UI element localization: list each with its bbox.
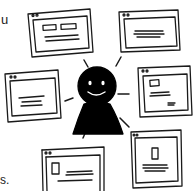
- person-smiling-icon: [73, 67, 123, 134]
- browser-window-mid-left: [5, 70, 61, 122]
- browser-window-top-right: [119, 10, 180, 52]
- browser-window-bottom-right: [131, 130, 182, 188]
- browser-window-top-left: [28, 9, 93, 57]
- illustration-canvas: [0, 0, 196, 191]
- browser-window-right: [138, 66, 192, 117]
- browser-window-bottom-left: [42, 147, 104, 191]
- illustration: u s.: [0, 0, 196, 191]
